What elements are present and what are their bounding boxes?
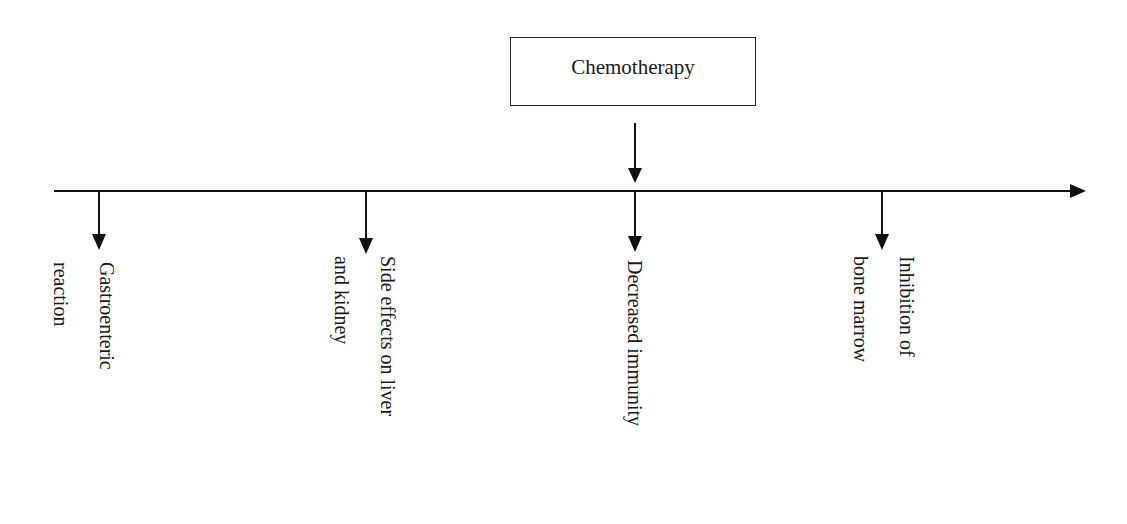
effect-gastroenteric: Gastroenteric reaction [38, 262, 130, 370]
effect-line: bone marrow [838, 256, 884, 362]
effect-line: Decreased immunity [612, 260, 658, 426]
effect-liver-kidney: Side effects on liver and kidney [319, 256, 411, 416]
effect-line: and kidney [319, 256, 365, 416]
effect-bone-marrow: Inhibition of bone marrow [838, 256, 930, 362]
effect-immunity: Decreased immunity [612, 260, 658, 426]
effect-line: Inhibition of [884, 256, 930, 362]
effect-line: Gastroenteric [84, 262, 130, 370]
timeline-arrows [0, 0, 1127, 524]
effect-line: Side effects on liver [365, 256, 411, 416]
effect-line: reaction [38, 262, 84, 370]
